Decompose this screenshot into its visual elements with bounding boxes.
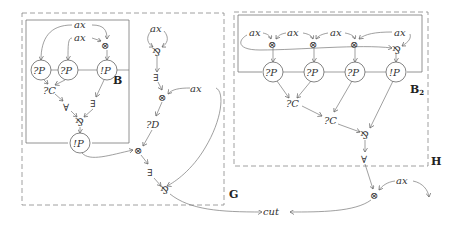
box-G-label: G xyxy=(229,188,238,201)
why-not-P-label: ?P xyxy=(306,67,318,78)
axiom-label: ax xyxy=(330,27,342,38)
par-icon: ⅋ xyxy=(392,45,401,56)
wire xyxy=(365,164,373,189)
wire xyxy=(170,194,262,212)
wire xyxy=(156,102,162,116)
tensor-icon: ⊗ xyxy=(158,92,166,103)
par-icon: ⅋ xyxy=(160,185,169,196)
tensor-icon: ⊗ xyxy=(370,190,378,201)
wire xyxy=(338,124,360,132)
axiom-label: ax xyxy=(396,175,408,186)
wire xyxy=(359,32,392,39)
forall-icon: ∀ xyxy=(63,102,69,113)
why-not-P-label: ?P xyxy=(33,65,45,76)
wire xyxy=(158,82,162,90)
wire xyxy=(96,80,104,97)
par-icon: ⅋ xyxy=(360,130,369,141)
why-not-P-label: ?P xyxy=(60,65,72,76)
wire xyxy=(302,106,322,116)
cut-label: cut xyxy=(263,206,280,217)
wire xyxy=(55,80,65,85)
proof-net-diagram: G B H B2 ax ax ⊗ ?P ?P !P ?C ∀ ∃ ⅋ !P ax… xyxy=(0,0,460,226)
forall-icon: ∀ xyxy=(361,154,367,165)
exists-icon: ∃ xyxy=(153,72,158,83)
box-G xyxy=(22,13,224,205)
tensor-icon: ⊗ xyxy=(309,39,317,50)
contraction-label: ?C xyxy=(324,115,337,126)
contraction-label: ?C xyxy=(286,98,299,109)
wire xyxy=(379,181,395,190)
wire xyxy=(55,94,63,101)
why-not-P-label: ?P xyxy=(347,67,359,78)
par-icon: ⅋ xyxy=(75,117,84,128)
contraction-label: ?C xyxy=(43,85,56,96)
wire xyxy=(370,81,393,128)
box-H-label: H xyxy=(431,155,441,168)
wire xyxy=(413,181,429,197)
exists-icon: ∃ xyxy=(90,98,95,109)
bang-P-label: !P xyxy=(100,65,111,76)
wire xyxy=(44,80,48,84)
wire xyxy=(167,88,221,186)
wire xyxy=(68,38,72,60)
wire xyxy=(168,88,190,94)
wire xyxy=(92,38,101,41)
axiom-label: ax xyxy=(190,83,202,94)
exists-icon: ∃ xyxy=(147,167,152,178)
wire xyxy=(143,130,152,146)
axiom-label: ax xyxy=(74,32,86,43)
tensor-icon: ⊗ xyxy=(350,39,358,50)
wire xyxy=(297,81,311,98)
why-not-P-label: ?P xyxy=(265,67,277,78)
wire xyxy=(277,81,289,98)
tensor-icon: ⊗ xyxy=(134,145,142,156)
bang-P-label: !P xyxy=(73,138,84,149)
bang-P-label: !P xyxy=(389,67,400,78)
wire xyxy=(290,200,371,212)
wire xyxy=(92,25,107,39)
tensor-icon: ⊗ xyxy=(101,40,109,51)
wire xyxy=(162,31,167,47)
par-icon: ⅋ xyxy=(152,47,161,58)
axiom-label: ax xyxy=(74,19,86,30)
axiom-label: ax xyxy=(394,27,406,38)
wire xyxy=(316,33,328,39)
axiom-label: ax xyxy=(150,23,162,34)
wire xyxy=(334,81,352,112)
wire xyxy=(41,25,72,60)
wire xyxy=(141,155,148,164)
axiom-label: ax xyxy=(287,27,299,38)
dereliction-label: ?D xyxy=(146,119,159,130)
tensor-icon: ⊗ xyxy=(268,39,276,50)
box-B2-label: B2 xyxy=(410,83,424,97)
axiom-label: ax xyxy=(249,27,261,38)
wire xyxy=(82,150,133,157)
wire xyxy=(84,109,93,117)
wire xyxy=(276,33,286,39)
